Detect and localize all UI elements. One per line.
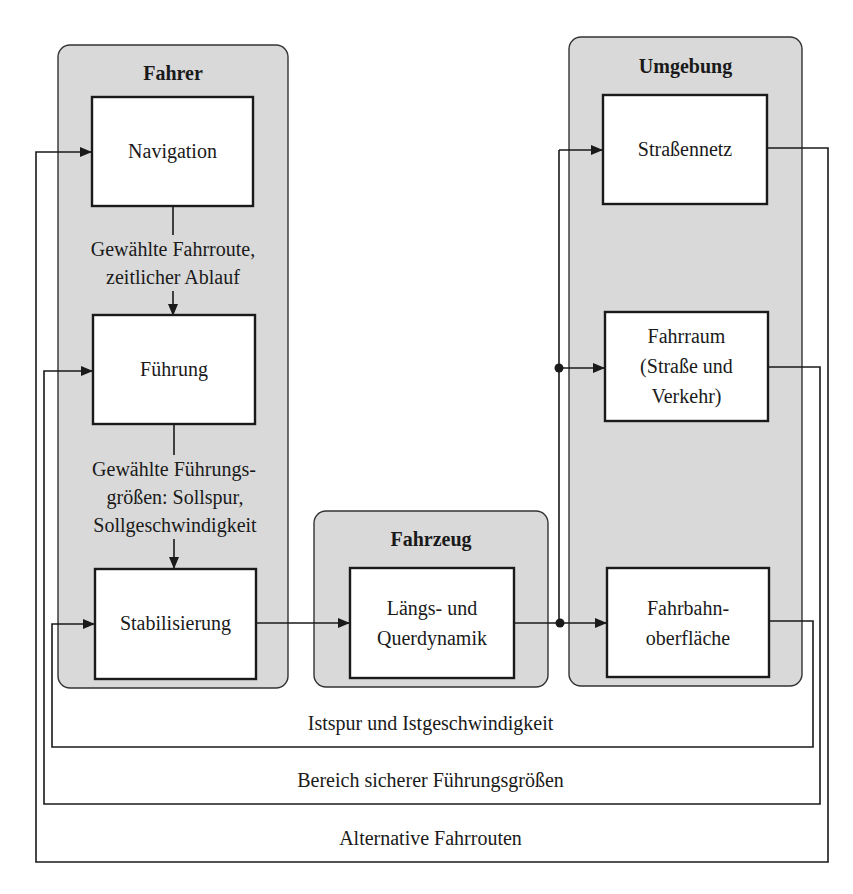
group-fahrzeug-title: Fahrzeug: [314, 528, 548, 551]
loop-bereich-label: Bereich sicherer Führungsgrößen: [0, 769, 853, 792]
node-fahrbahn-label-line2: oberfläche: [607, 624, 769, 652]
junction-dot-fahrraum: [555, 364, 564, 373]
node-strassennetz-label: Straßennetz: [603, 135, 767, 163]
loop-alternative-label: Alternative Fahrrouten: [0, 827, 853, 850]
edge-nav-fuehrung-label-line1: Gewählte Fahrroute,: [70, 235, 276, 263]
edge-fuehrung-stab-label-line2: größen: Sollspur,: [80, 483, 270, 511]
node-navigation-label: Navigation: [92, 137, 253, 165]
edge-fuehrung-stab-label-line1: Gewählte Führungs-: [70, 455, 278, 483]
loop-istspur-label: Istspur und Istgeschwindigkeit: [0, 712, 853, 735]
node-dynamik-label-line2: Querdynamik: [350, 624, 514, 652]
edge-nav-fuehrung-label-line2: zeitlicher Ablauf: [80, 263, 266, 291]
edge-fuehrung-stab-label-line3: Sollgeschwindigkeit: [72, 511, 278, 539]
node-stabilisierung-label: Stabilisierung: [95, 609, 256, 637]
node-fahrraum-label-line3: Verkehr): [605, 382, 768, 410]
node-fahrbahn-box: [607, 568, 769, 677]
group-umgebung-title: Umgebung: [569, 55, 802, 78]
junction-dot-fahrbahn: [556, 619, 565, 628]
node-fahrraum-label-line2: (Straße und: [605, 352, 768, 380]
group-fahrer-title: Fahrer: [58, 62, 288, 85]
node-fahrraum-label-line1: Fahrraum: [605, 322, 768, 350]
node-fahrbahn-label-line1: Fahrbahn-: [607, 594, 769, 622]
node-dynamik-label-line1: Längs- und: [350, 594, 514, 622]
node-dynamik-box: [350, 568, 514, 678]
node-fuehrung-label: Führung: [93, 355, 255, 383]
